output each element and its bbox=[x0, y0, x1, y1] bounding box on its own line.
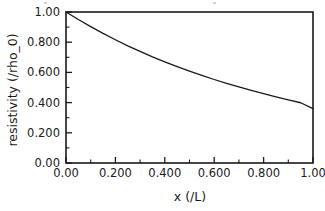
x-tick-label: 1.00 bbox=[300, 166, 325, 180]
y-axis-title: resistivity (/rho_0) bbox=[5, 33, 20, 146]
x-tick-label: 0.600 bbox=[198, 166, 231, 180]
x-tick-label: 0.200 bbox=[99, 166, 132, 180]
x-tick-label: 0.800 bbox=[247, 166, 280, 180]
y-tick-label: 0.00 bbox=[34, 156, 60, 170]
y-tick-label: 0.800 bbox=[27, 35, 60, 49]
x-axis-title: x (/L) bbox=[174, 189, 206, 204]
resistivity-vs-position-chart: 0.000.2000.4000.6000.8001.00 0.000.2000.… bbox=[0, 0, 325, 211]
y-tick-label: 0.200 bbox=[27, 126, 60, 140]
top-artifact-speck-left bbox=[44, 2, 47, 4]
y-tick-label: 1.00 bbox=[34, 5, 60, 19]
figure-container: 0.000.2000.4000.6000.8001.00 0.000.2000.… bbox=[0, 0, 325, 211]
top-artifact-speck-right bbox=[213, 2, 216, 4]
y-tick-label: 0.600 bbox=[27, 65, 60, 79]
x-tick-label: 0.400 bbox=[148, 166, 181, 180]
y-tick-label: 0.400 bbox=[27, 96, 60, 110]
